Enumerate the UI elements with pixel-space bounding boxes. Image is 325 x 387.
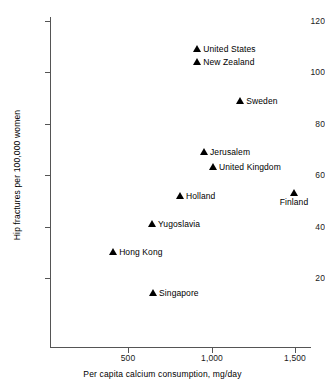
y-axis-tick-label: 20 [297,274,325,283]
x-axis-title: Per capita calcium consumption, mg/day [0,369,325,379]
data-point-label: Hong Kong [119,248,162,257]
y-axis-line [50,17,51,348]
y-axis-tick [45,278,50,279]
triangle-up-icon [176,192,184,199]
y-axis-tick-label: 120 [297,17,325,26]
data-point-label: Holland [186,192,216,201]
scatter-chart: 20406080100120 5001,0001,500 Hip fractur… [0,0,325,387]
y-axis-tick [45,175,50,176]
y-axis-tick-label: 100 [297,68,325,77]
y-axis-tick [45,21,50,22]
x-axis-tick-label: 1,000 [187,354,237,363]
triangle-up-icon [200,148,208,155]
triangle-up-icon [149,289,157,296]
y-axis-tick-label: 80 [297,120,325,129]
data-point-label: United States [203,45,255,54]
data-point-label: Yugoslavia [158,220,200,229]
triangle-up-icon [148,220,156,227]
y-axis-tick [45,227,50,228]
triangle-up-icon [290,189,298,196]
x-axis-line [50,347,311,348]
data-point-label: New Zealand [203,58,254,67]
triangle-up-icon [236,97,244,104]
triangle-up-icon [193,58,201,65]
data-point-label: United Kingdom [219,163,281,172]
y-axis-title: Hip fractures per 100,000 women [12,75,22,275]
x-axis-tick-label: 500 [103,354,153,363]
y-axis-tick-label: 40 [297,223,325,232]
triangle-up-icon [209,163,217,170]
data-point-label: Sweden [246,97,277,106]
triangle-up-icon [109,248,117,255]
data-point-label: Singapore [159,289,199,298]
y-axis-tick [45,72,50,73]
y-axis-tick [45,124,50,125]
data-point-label: Finland [264,198,324,207]
y-axis-tick-label: 60 [297,171,325,180]
x-axis-tick-label: 1,500 [270,354,320,363]
triangle-up-icon [193,45,201,52]
data-point-label: Jerusalem [210,148,250,157]
